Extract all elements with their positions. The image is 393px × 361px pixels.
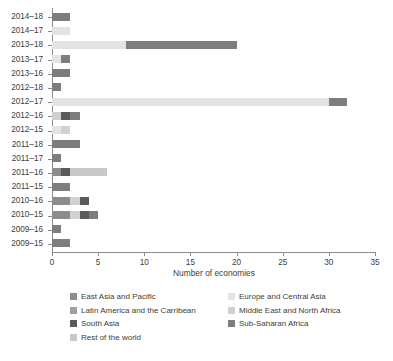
y-axis-tick-label: 2012–18	[0, 81, 48, 95]
x-axis-tick-label: 20	[222, 257, 252, 268]
legend-label: East Asia and Pacific	[81, 292, 156, 301]
x-axis-tick	[190, 252, 191, 256]
stacked-bar	[52, 112, 80, 120]
y-axis-tick-label: 2010–15	[0, 208, 48, 222]
x-axis-tick-label: 5	[83, 257, 113, 268]
bar-row	[52, 38, 375, 52]
legend-swatch-icon	[228, 307, 235, 314]
bar-segment	[70, 211, 79, 219]
x-axis-tick-label: 0	[37, 257, 67, 268]
stacked-bar	[52, 98, 347, 106]
bar-row	[52, 109, 375, 123]
bar-row	[52, 223, 375, 237]
bar-row	[52, 24, 375, 38]
bar-segment	[52, 154, 61, 162]
stacked-bar	[52, 154, 61, 162]
bar-segment	[80, 197, 89, 205]
legend-item[interactable]: Rest of the world	[70, 331, 218, 345]
legend-swatch-icon	[228, 293, 235, 300]
y-axis-tick-labels: 2014–182014–172013–182013–172013–162012–…	[0, 10, 48, 251]
stacked-bar	[52, 197, 89, 205]
legend-label: South Asia	[81, 319, 119, 328]
stacked-bar	[52, 13, 70, 21]
bar-segment	[52, 126, 61, 134]
legend-item[interactable]: Latin America and the Carribean	[70, 304, 218, 318]
bar-segment	[52, 168, 61, 176]
stacked-bar	[52, 69, 70, 77]
y-axis-tick-label: 2014–17	[0, 24, 48, 38]
bar-row	[52, 81, 375, 95]
x-axis-tick	[237, 252, 238, 256]
x-axis-tick	[283, 252, 284, 256]
bar-row	[52, 180, 375, 194]
bar-row	[52, 95, 375, 109]
x-axis-tick-label: 35	[360, 257, 390, 268]
bar-segment	[70, 197, 79, 205]
bar-row	[52, 10, 375, 24]
bar-row	[52, 166, 375, 180]
y-axis-tick-label: 2011–15	[0, 180, 48, 194]
legend-swatch-icon	[70, 320, 77, 327]
x-axis-tick-label: 30	[314, 257, 344, 268]
x-axis-line	[52, 252, 376, 253]
y-axis-tick-label: 2014–18	[0, 10, 48, 24]
bar-segment	[52, 13, 70, 21]
bar-row	[52, 208, 375, 222]
legend-item[interactable]: Europe and Central Asia	[228, 290, 378, 304]
stacked-bar	[52, 211, 98, 219]
legend-swatch-icon	[228, 320, 235, 327]
stacked-bar	[52, 183, 70, 191]
bar-segment	[52, 140, 80, 148]
stacked-bar	[52, 225, 61, 233]
legend-label: Middle East and North Africa	[239, 306, 340, 315]
stacked-bar	[52, 140, 80, 148]
bar-segment	[61, 55, 70, 63]
x-axis-tick	[98, 252, 99, 256]
legend-swatch-icon	[70, 307, 77, 314]
legend-column-left: East Asia and PacificLatin America and t…	[70, 290, 218, 344]
x-axis-title: Number of economies	[52, 268, 376, 278]
y-axis-tick-label: 2011–17	[0, 152, 48, 166]
legend-label: Europe and Central Asia	[239, 292, 326, 301]
legend-swatch-icon	[70, 293, 77, 300]
legend-label: Latin America and the Carribean	[81, 306, 196, 315]
stacked-bar	[52, 126, 70, 134]
legend-column-right: Europe and Central AsiaMiddle East and N…	[228, 290, 378, 331]
bar-segment	[70, 168, 107, 176]
bar-segment	[52, 197, 70, 205]
bar-segment	[52, 98, 329, 106]
legend-item[interactable]: Middle East and North Africa	[228, 304, 378, 318]
bar-segment	[52, 112, 61, 120]
bar-row	[52, 194, 375, 208]
legend-label: Rest of the world	[81, 333, 141, 342]
legend-swatch-icon	[70, 334, 77, 341]
bar-segment	[89, 211, 98, 219]
stacked-bar	[52, 41, 237, 49]
stacked-bar	[52, 239, 70, 247]
chart-legend: East Asia and PacificLatin America and t…	[70, 290, 380, 352]
bar-segment	[52, 211, 70, 219]
bar-row	[52, 237, 375, 251]
x-axis-tick	[52, 252, 53, 256]
y-axis-tick-label: 2013–18	[0, 38, 48, 52]
bar-row	[52, 138, 375, 152]
legend-item[interactable]: Sub-Saharan Africa	[228, 317, 378, 331]
y-axis-tick-label: 2009–15	[0, 237, 48, 251]
legend-item[interactable]: South Asia	[70, 317, 218, 331]
stacked-bar	[52, 168, 107, 176]
bar-segment	[52, 27, 70, 35]
bar-row	[52, 53, 375, 67]
x-axis-tick	[144, 252, 145, 256]
legend-label: Sub-Saharan Africa	[239, 319, 308, 328]
bar-segment	[52, 239, 70, 247]
bar-chart: 2014–182014–172013–182013–172013–162012–…	[0, 0, 393, 361]
y-axis-tick-label: 2013–16	[0, 67, 48, 81]
y-axis-tick-label: 2010–16	[0, 194, 48, 208]
bar-row	[52, 152, 375, 166]
bar-row	[52, 67, 375, 81]
x-axis-tick	[375, 252, 376, 256]
stacked-bar	[52, 83, 61, 91]
legend-item[interactable]: East Asia and Pacific	[70, 290, 218, 304]
y-axis-tick-label: 2012–16	[0, 109, 48, 123]
y-axis-tick-label: 2013–17	[0, 53, 48, 67]
